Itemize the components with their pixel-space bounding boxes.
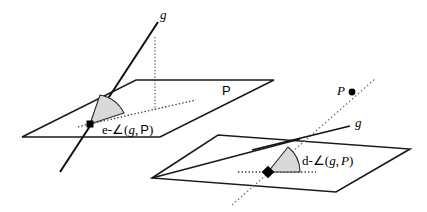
right-angle-comma: , — [336, 153, 339, 168]
left-angle-symbol-icon: ∠ — [112, 122, 124, 137]
left-line-g-label: g — [160, 7, 167, 22]
left-angle-close-paren: ) — [149, 122, 153, 137]
right-angle-plane-arg: P — [340, 153, 349, 168]
left-angle-label-prefix: e- — [102, 122, 112, 137]
geometry-diagram: g P e-∠(g,P) — [0, 0, 427, 212]
right-angle-symbol-icon: ∠ — [313, 153, 325, 168]
left-angle-comma: , — [135, 122, 138, 137]
diagram-canvas: g P e-∠(g,P) — [0, 0, 427, 212]
right-angle-label-prefix: d- — [302, 153, 313, 168]
right-angle-label: d-∠(g,P) — [302, 153, 353, 168]
right-angle-close-paren: ) — [349, 153, 353, 168]
left-plane-label: P — [222, 83, 231, 98]
right-point-marker — [349, 89, 356, 96]
left-angle-label: e-∠(g,P) — [102, 122, 153, 137]
right-line-g-label: g — [355, 115, 362, 130]
left-vertex-marker — [87, 121, 94, 128]
right-point-label: P — [336, 83, 345, 98]
left-angle-plane-arg: P — [140, 122, 149, 137]
